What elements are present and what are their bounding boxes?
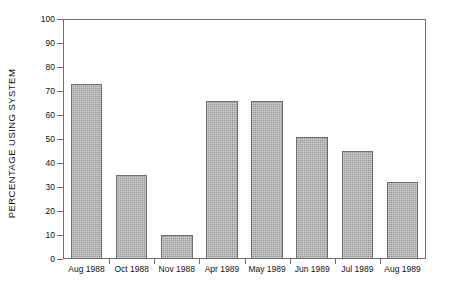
x-axis-tick [290, 259, 291, 264]
x-axis-tick-label: Aug 1988 [64, 265, 109, 274]
y-axis-tick-label: 90 [7, 39, 55, 48]
bar [116, 175, 148, 259]
y-axis-tick-label: 80 [7, 63, 55, 72]
bar [387, 182, 419, 259]
x-axis-tick [335, 259, 336, 264]
y-axis-tick-label: 30 [7, 183, 55, 192]
bar [296, 137, 328, 259]
y-axis-tick-label: 100 [7, 15, 55, 24]
bar-chart: PERCENTAGE USING SYSTEM 1009080706050403… [0, 0, 457, 287]
bar [251, 101, 283, 259]
x-axis-tick-label: May 1989 [245, 265, 290, 274]
y-axis-tick-label: 40 [7, 159, 55, 168]
y-axis-tick [57, 67, 63, 68]
y-axis-tick-label: 70 [7, 87, 55, 96]
y-axis-tick [57, 139, 63, 140]
x-axis-tick-label: Nov 1988 [154, 265, 199, 274]
y-axis-tick [57, 19, 63, 20]
x-axis-tick-label: Aug 1989 [380, 265, 425, 274]
x-axis-tick-label: Jul 1989 [335, 265, 380, 274]
x-axis-tick [154, 259, 155, 264]
y-axis-tick [57, 235, 63, 236]
y-axis-tick [57, 211, 63, 212]
x-axis-tick-label: Apr 1989 [199, 265, 244, 274]
x-axis-tick-label: Jun 1989 [290, 265, 335, 274]
bar [342, 151, 374, 259]
x-axis-tick-label: Oct 1988 [109, 265, 154, 274]
y-axis-tick [57, 163, 63, 164]
bar [161, 235, 193, 259]
y-axis-tick [57, 91, 63, 92]
y-axis-tick [57, 115, 63, 116]
bar [206, 101, 238, 259]
x-axis-tick [199, 259, 200, 264]
bar [71, 84, 103, 259]
y-axis-tick-label: 20 [7, 207, 55, 216]
y-axis-tick-label: 60 [7, 111, 55, 120]
x-axis-tick [380, 259, 381, 264]
y-axis-tick [57, 259, 63, 260]
y-axis-tick-label: 0 [7, 255, 55, 264]
x-axis-tick [245, 259, 246, 264]
x-axis-tick [109, 259, 110, 264]
y-axis-tick [57, 187, 63, 188]
bars-group [64, 20, 425, 259]
y-axis-tick-label: 50 [7, 135, 55, 144]
y-axis-tick-label: 10 [7, 231, 55, 240]
y-axis-tick [57, 43, 63, 44]
